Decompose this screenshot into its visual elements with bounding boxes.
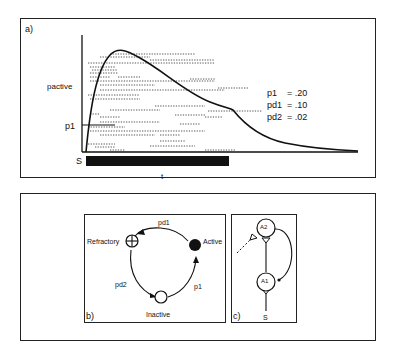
node-a1-label: A1 [261,278,268,285]
dashed-input-synapse-icon [250,234,257,240]
circuit-input-label: S [263,314,268,321]
circuit-diagram [0,0,393,359]
synapse-a2-icon [262,238,270,243]
node-a2-label: A2 [260,224,267,231]
